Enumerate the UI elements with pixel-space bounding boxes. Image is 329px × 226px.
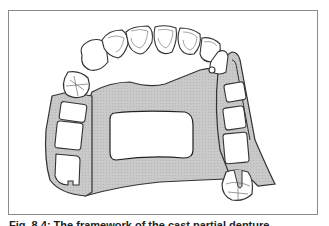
right-saddle-window-2 [223,106,247,131]
figure-caption: Fig. 8.4: The framework of the cast part… [9,218,269,226]
left-posterior-saddle [46,92,93,196]
left-clasp-tooth [63,72,89,98]
right-saddle-window-3 [223,132,250,164]
right-saddle-window-1 [224,81,247,102]
right-clasp-tooth [222,170,253,200]
left-saddle-window-3 [55,154,80,185]
denture-framework-diagram [0,0,329,226]
palatal-window [110,111,193,160]
left-saddle-window-2 [55,121,84,151]
anterior-teeth [81,26,228,74]
left-saddle-window-1 [59,101,87,122]
